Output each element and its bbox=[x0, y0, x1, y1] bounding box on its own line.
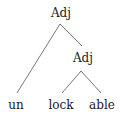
tree-diagram: Adj Adj un lock able bbox=[0, 0, 124, 119]
edge-adj-lock bbox=[62, 71, 81, 93]
leaf-lock: lock bbox=[48, 98, 74, 112]
edge-root-un bbox=[17, 24, 60, 93]
morphology-tree: Adj Adj un lock able bbox=[0, 0, 124, 119]
leaf-able: able bbox=[89, 98, 115, 112]
edge-adj-able bbox=[81, 71, 101, 93]
edge-root-adj bbox=[60, 24, 82, 46]
node-root: Adj bbox=[50, 6, 71, 20]
node-inner: Adj bbox=[72, 51, 93, 65]
leaf-un: un bbox=[8, 98, 24, 112]
